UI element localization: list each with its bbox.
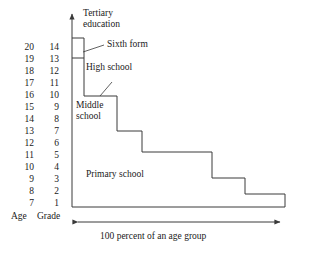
leader-sixth-form (83, 45, 104, 52)
leader-high-school (100, 82, 112, 96)
label-high-school: High school (86, 63, 132, 73)
label-tertiary-line2: education (83, 19, 120, 30)
education-staircase-figure: 20 19 18 17 16 15 14 13 12 11 10 9 8 7 1… (0, 0, 311, 258)
step-sixth-form (72, 38, 84, 58)
step-primary-lower (245, 178, 285, 194)
label-primary-school: Primary school (86, 170, 144, 180)
label-tertiary-line1: Tertiary (83, 8, 120, 19)
step-primary-upper (142, 131, 212, 152)
label-middle-line1: Middle (76, 100, 103, 111)
bottom-axis-label: 100 percent of an age group (100, 232, 206, 242)
label-sixth-form: Sixth form (107, 40, 148, 50)
age-axis-title: Age (11, 212, 27, 222)
step-primary-middle (212, 152, 245, 178)
label-tertiary-education: Tertiary education (83, 8, 120, 30)
label-middle-line2: school (76, 111, 103, 122)
grade-axis-title: Grade (37, 212, 60, 222)
label-middle-school: Middle school (76, 100, 103, 122)
step-middle-school (117, 96, 142, 131)
